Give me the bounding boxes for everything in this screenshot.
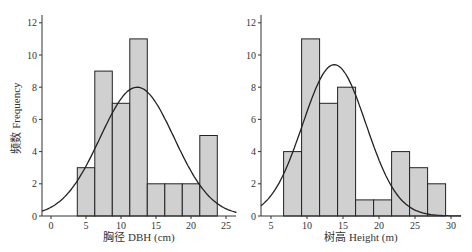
histogram-bar — [147, 184, 165, 216]
histogram-bar — [284, 152, 302, 216]
x-tick-label: 0 — [49, 220, 54, 231]
histogram-bar — [77, 168, 95, 216]
histogram-bar — [112, 103, 130, 216]
histogram-bar — [182, 184, 200, 216]
x-axis-label: 树高 Height (m) — [324, 230, 398, 244]
histogram-bar — [320, 103, 338, 216]
x-tick-label: 5 — [269, 220, 274, 231]
y-tick-label: 4 — [251, 146, 256, 157]
y-tick-label: 12 — [27, 17, 37, 28]
y-tick-label: 2 — [251, 178, 256, 189]
x-tick-label: 15 — [338, 220, 348, 231]
x-tick-label: 10 — [302, 220, 312, 231]
y-tick-label: 6 — [251, 114, 256, 125]
x-tick-label: 10 — [116, 220, 126, 231]
histogram-figure: 0246810120510152025胸径 DBH (cm)频数 Frequen… — [0, 0, 472, 252]
histogram-bar — [200, 136, 218, 217]
height-histogram-panel: 02468101251015202530树高 Height (m) — [246, 15, 461, 244]
y-tick-label: 12 — [246, 17, 256, 28]
y-tick-label: 4 — [32, 146, 37, 157]
y-tick-label: 6 — [32, 114, 37, 125]
y-tick-label: 0 — [32, 211, 37, 222]
y-tick-label: 8 — [32, 82, 37, 93]
x-tick-label: 5 — [84, 220, 89, 231]
histogram-bar — [356, 200, 374, 216]
histogram-bar — [392, 152, 410, 216]
y-tick-label: 10 — [246, 50, 256, 61]
histogram-bar — [374, 200, 392, 216]
x-tick-label: 25 — [410, 220, 420, 231]
histogram-bar — [428, 184, 446, 216]
dbh-histogram-panel: 0246810120510152025胸径 DBH (cm)频数 Frequen… — [9, 15, 237, 244]
y-axis-label: 频数 Frequency — [9, 82, 22, 154]
x-axis-label: 胸径 DBH (cm) — [103, 230, 175, 244]
x-tick-label: 30 — [446, 220, 456, 231]
x-tick-label: 15 — [151, 220, 161, 231]
y-tick-label: 2 — [32, 178, 37, 189]
x-tick-label: 25 — [221, 220, 231, 231]
histogram-bar — [302, 39, 320, 216]
x-tick-label: 20 — [374, 220, 384, 231]
y-tick-label: 8 — [251, 82, 256, 93]
histogram-bar — [165, 184, 183, 216]
y-tick-label: 10 — [27, 50, 37, 61]
x-tick-label: 20 — [186, 220, 196, 231]
y-tick-label: 0 — [251, 211, 256, 222]
histogram-bar — [338, 87, 356, 216]
histogram-bar — [130, 39, 148, 216]
